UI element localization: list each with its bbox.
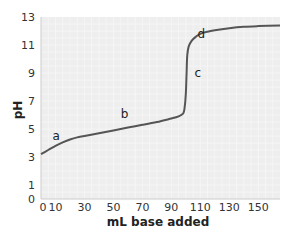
annotation-b: b xyxy=(121,107,129,121)
annotation-a: a xyxy=(53,129,60,143)
y-tick-label: 3 xyxy=(28,151,35,164)
y-tick-label: 5 xyxy=(28,123,35,136)
x-tick-labels: 01030507090110130150 xyxy=(40,201,269,214)
y-tick-label: 1 xyxy=(28,179,35,192)
annotation-d: d xyxy=(197,27,205,41)
y-tick-label: 7 xyxy=(28,95,35,108)
y-axis-label: pH xyxy=(11,101,25,120)
y-tick-label: 13 xyxy=(21,11,35,24)
y-tick-label: 0 xyxy=(28,193,35,206)
x-tick-label: 0 xyxy=(40,201,47,214)
x-tick-label: 50 xyxy=(106,201,120,214)
x-tick-label: 10 xyxy=(48,201,62,214)
y-tick-label: 11 xyxy=(21,39,35,52)
x-tick-label: 30 xyxy=(77,201,91,214)
y-tick-label: 9 xyxy=(28,67,35,80)
titration-chart: 0135791113 01030507090110130150 abcd pH … xyxy=(0,0,291,235)
x-axis-label: mL base added xyxy=(107,215,209,229)
x-tick-label: 70 xyxy=(135,201,149,214)
x-tick-label: 130 xyxy=(219,201,240,214)
x-tick-label: 90 xyxy=(164,201,178,214)
x-tick-label: 150 xyxy=(248,201,269,214)
annotation-c: c xyxy=(195,66,202,80)
x-tick-label: 110 xyxy=(190,201,211,214)
